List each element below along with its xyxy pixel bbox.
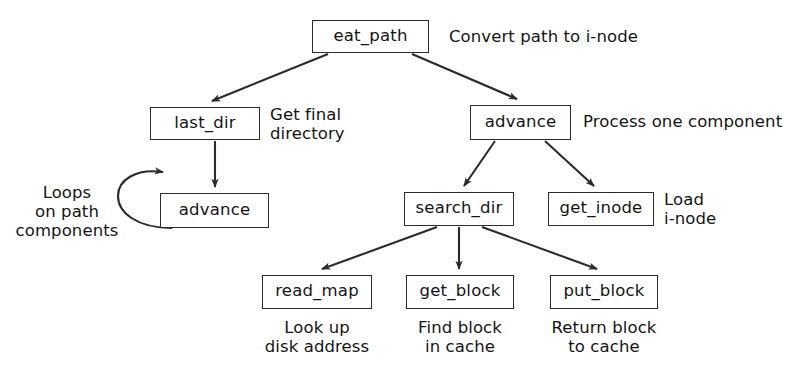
node-advance-right[interactable]: advance <box>470 105 571 140</box>
edge-eat-path-to-last-dir <box>212 54 328 101</box>
annotation-eat-path: Convert path to i-node <box>449 27 638 46</box>
edge-eat-path-to-advance <box>412 54 517 99</box>
node-read-map-label: read_map <box>275 283 359 301</box>
annotation-put-block: Return block to cache <box>538 318 670 356</box>
node-get-inode[interactable]: get_inode <box>548 192 654 226</box>
node-last-dir-label: last_dir <box>174 115 235 133</box>
edge-advance-to-search-dir <box>464 141 495 186</box>
node-search-dir[interactable]: search_dir <box>404 192 514 226</box>
node-get-inode-label: get_inode <box>560 200 643 218</box>
annotation-get-inode: Load i-node <box>664 190 716 228</box>
annotation-loops-on-path-components: Loops on path components <box>8 183 126 240</box>
node-advance-left-label: advance <box>179 202 251 220</box>
node-read-map[interactable]: read_map <box>262 275 372 309</box>
edge-search-dir-to-read-map <box>322 227 437 269</box>
annotation-advance-right: Process one component <box>583 112 782 131</box>
node-last-dir[interactable]: last_dir <box>150 107 260 140</box>
node-advance-right-label: advance <box>485 114 557 132</box>
edge-search-dir-to-put-block <box>482 227 597 269</box>
node-put-block[interactable]: put_block <box>550 275 658 309</box>
annotation-get-block: Find block in cache <box>398 318 522 356</box>
node-get-block-label: get_block <box>420 283 501 301</box>
edge-advance-to-get-inode <box>545 141 594 186</box>
annotation-last-dir: Get final directory <box>270 105 345 143</box>
annotation-read-map: Look up disk address <box>252 318 382 356</box>
node-get-block[interactable]: get_block <box>406 275 514 309</box>
node-eat-path-label: eat_path <box>333 28 407 46</box>
node-advance-left[interactable]: advance <box>160 193 269 228</box>
node-search-dir-label: search_dir <box>416 200 503 218</box>
call-hierarchy-diagram: eat_path last_dir advance advance search… <box>0 0 812 377</box>
node-put-block-label: put_block <box>563 283 644 301</box>
node-eat-path[interactable]: eat_path <box>312 20 429 53</box>
